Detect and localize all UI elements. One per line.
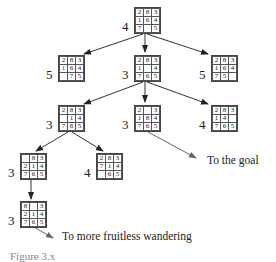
- tile: 2: [213, 107, 220, 114]
- tile: 6: [106, 171, 113, 178]
- tile: [229, 73, 236, 80]
- tile: 7: [68, 73, 75, 80]
- edge-to-goal: [148, 132, 196, 158]
- tile: 1: [136, 17, 143, 24]
- puzzle-grid: 2 8 3 1 4 7 6 5: [134, 55, 161, 82]
- edge-to-wandering: [34, 227, 53, 238]
- goal-annotation: To the goal: [207, 154, 259, 166]
- tile: 5: [114, 171, 121, 178]
- tile: 3: [152, 9, 159, 16]
- tile: 2: [98, 155, 105, 162]
- tile: 8: [68, 107, 75, 114]
- tile: 4: [229, 65, 236, 72]
- tile: 6: [68, 65, 75, 72]
- tile: 6: [144, 73, 151, 80]
- puzzle-grid: 8 3 2 1 4 7 6 5: [20, 201, 47, 228]
- puzzle-grid: 2 8 3 1 6 4 7 5: [134, 7, 161, 34]
- tile: 1: [30, 163, 37, 170]
- tile: 7: [22, 219, 29, 226]
- tile: 6: [221, 123, 228, 130]
- tile: 4: [152, 65, 159, 72]
- puzzle-grid: 2 8 3 1 6 4 7 5: [58, 55, 85, 82]
- tile: 1: [136, 65, 143, 72]
- heuristic-value: 5: [46, 68, 53, 81]
- puzzle-grid: 2 8 3 1 4 7 6 5: [58, 105, 85, 132]
- tile: 8: [106, 155, 113, 162]
- tile: 4: [152, 115, 159, 122]
- tile: 7: [136, 25, 143, 32]
- tile: 5: [38, 171, 45, 178]
- tile: [229, 115, 236, 122]
- tile: 3: [229, 57, 236, 64]
- edge-l2left-l3-right: [72, 132, 103, 151]
- tile: 7: [213, 73, 220, 80]
- edge-l1mid-l2-right: [147, 82, 208, 104]
- tile: 2: [213, 57, 220, 64]
- tile: [60, 115, 67, 122]
- tile: 5: [229, 123, 236, 130]
- tile: 1: [213, 115, 220, 122]
- tile: 5: [152, 25, 159, 32]
- tile: 2: [60, 107, 67, 114]
- tile: 6: [68, 123, 75, 130]
- heuristic-value: 3: [122, 68, 129, 81]
- tile: 2: [136, 107, 143, 114]
- tile: 2: [136, 57, 143, 64]
- tile: 4: [152, 17, 159, 24]
- tile: [144, 65, 151, 72]
- tile: 2: [22, 163, 29, 170]
- tile: 6: [30, 219, 37, 226]
- tile: 2: [136, 9, 143, 16]
- tile: 3: [152, 57, 159, 64]
- tile: 6: [144, 123, 151, 130]
- heuristic-value: 3: [8, 166, 15, 179]
- tile: 4: [38, 163, 45, 170]
- heuristic-value: 4: [84, 166, 91, 179]
- tile: 7: [98, 163, 105, 170]
- wandering-annotation: To more fruitless wandering: [62, 230, 192, 242]
- tile: 3: [229, 107, 236, 114]
- tile: 6: [221, 65, 228, 72]
- tile: [60, 73, 67, 80]
- tile: 6: [30, 171, 37, 178]
- tile: [98, 171, 105, 178]
- tile: 8: [221, 57, 228, 64]
- edge-l1mid-l2-left: [84, 82, 143, 104]
- tile: 4: [38, 211, 45, 218]
- tile: [30, 203, 37, 210]
- heuristic-value: 3: [122, 118, 129, 131]
- tile: 5: [152, 123, 159, 130]
- tile: 8: [144, 115, 151, 122]
- tile: 7: [136, 123, 143, 130]
- tile: 1: [213, 65, 220, 72]
- tile: 1: [68, 115, 75, 122]
- edge-root-l1-right: [147, 34, 208, 54]
- tile: 8: [22, 203, 29, 210]
- tile: 8: [144, 57, 151, 64]
- tile: 2: [60, 57, 67, 64]
- heuristic-value: 5: [199, 68, 206, 81]
- tile: 3: [76, 107, 83, 114]
- tile: 1: [60, 65, 67, 72]
- tile: 3: [38, 155, 45, 162]
- tile: 5: [152, 73, 159, 80]
- tile: 5: [38, 219, 45, 226]
- tile: 4: [114, 163, 121, 170]
- tile: 6: [144, 17, 151, 24]
- figure-caption: Figure 3.x: [10, 250, 55, 262]
- tile: 3: [152, 107, 159, 114]
- tile: 5: [221, 73, 228, 80]
- tile: 8: [221, 107, 228, 114]
- heuristic-value: 3: [8, 214, 15, 227]
- tile: 3: [76, 57, 83, 64]
- puzzle-grid: 2 8 3 7 1 4 6 5: [96, 153, 123, 180]
- heuristic-value: 3: [46, 118, 53, 131]
- tile: 8: [30, 155, 37, 162]
- tile: 7: [22, 171, 29, 178]
- puzzle-grid: 2 8 3 1 4 7 6 5: [211, 105, 238, 132]
- puzzle-grid: 2 8 3 1 6 4 7 5: [211, 55, 238, 82]
- tile: [144, 107, 151, 114]
- puzzle-grid: 8 3 2 1 4 7 6 5: [20, 153, 47, 180]
- tile: 1: [30, 211, 37, 218]
- edge-root-l1-left: [84, 34, 143, 54]
